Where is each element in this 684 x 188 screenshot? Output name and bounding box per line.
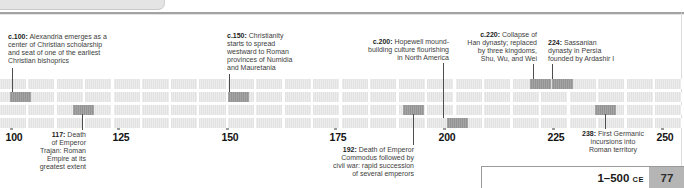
- tick-mark-150: [226, 128, 229, 131]
- timeline-band: [0, 79, 684, 129]
- event-description: Collapse of Han dynasty; replaced by thr…: [467, 31, 537, 62]
- tick-label-175: 175: [330, 131, 347, 143]
- event-marker-c150-christianity: [228, 92, 249, 103]
- book-timeline-page: c.100: Alexandria emerges as a center of…: [0, 0, 684, 188]
- event-annotation-117-trajan: 117: Death of Emperor Trajan: Roman Empi…: [40, 131, 86, 171]
- tick-mark-225: [552, 128, 555, 131]
- event-annotation-224-sassanian: 224: Sassanian dynasty in Persia founded…: [548, 39, 614, 63]
- event-marker-c200-hopewell: [447, 118, 468, 129]
- event-year-label: 192:: [343, 146, 357, 153]
- event-marker-117-trajan: [73, 105, 94, 116]
- event-leader-c200-hopewell: [443, 63, 444, 118]
- event-marker-224-sassanian: [552, 79, 573, 90]
- tick-label-125: 125: [113, 131, 130, 143]
- tick-label-150: 150: [222, 131, 239, 143]
- event-leader-224-sassanian: [552, 64, 553, 79]
- event-year-label: c.100:: [8, 33, 28, 40]
- timeline-row-2: [0, 92, 684, 103]
- tick-mark-175: [334, 128, 337, 131]
- event-leader-c100-alexandria: [12, 68, 13, 92]
- tick-label-100: 100: [6, 131, 23, 143]
- page-number: 77: [649, 167, 684, 188]
- event-leader-117-trajan: [82, 114, 83, 130]
- event-year-label: 238:: [582, 130, 596, 137]
- top-rule-shadow: [0, 14, 684, 15]
- event-year-label: c.200:: [373, 38, 393, 45]
- event-year-label: c.220:: [480, 31, 500, 38]
- event-annotation-192-commodus: 192: Death of Emperor Commodus followed …: [333, 146, 414, 178]
- tick-mark-100: [10, 128, 13, 131]
- event-marker-c100-alexandria: [10, 92, 31, 103]
- event-leader-192-commodus: [413, 114, 414, 145]
- event-year-label: 224:: [548, 39, 562, 46]
- tick-label-200: 200: [439, 131, 456, 143]
- tick-mark-125: [117, 128, 120, 131]
- tick-label-225: 225: [548, 131, 565, 143]
- event-leader-c220-han-collapse: [533, 64, 534, 79]
- event-annotation-c100-alexandria: c.100: Alexandria emerges as a center of…: [8, 33, 107, 65]
- event-annotation-c220-han-collapse: c.220: Collapse of Han dynasty; replaced…: [467, 31, 537, 63]
- page-footer: 1–500 CE 77: [481, 166, 684, 188]
- event-description: First Germanic incursions into Roman ter…: [589, 130, 644, 153]
- tick-label-250: 250: [657, 131, 674, 143]
- event-annotation-238-germanic: 238: First Germanic incursions into Roma…: [582, 130, 644, 154]
- footer-era-label: CE: [633, 175, 644, 184]
- tick-mark-200: [443, 128, 446, 131]
- footer-period-label: 1–500 CE: [597, 172, 644, 184]
- event-annotation-c200-hopewell: c.200: Hopewell mound- building culture …: [368, 38, 449, 62]
- timeline-row-3: [0, 105, 684, 116]
- event-leader-c150-christianity: [229, 74, 230, 92]
- event-annotation-c150-christianity: c.150: Christianity starts to spread wes…: [227, 32, 292, 72]
- event-year-label: c.150:: [227, 32, 247, 39]
- timeline-row-1: [0, 79, 684, 90]
- event-marker-c220-han-collapse: [530, 79, 551, 90]
- timeline-row-4: [0, 118, 684, 129]
- top-toolbar-remnant: [0, 0, 165, 10]
- event-leader-238-germanic: [605, 114, 606, 129]
- event-year-label: 117:: [52, 131, 66, 138]
- tick-mark-250: [661, 128, 664, 131]
